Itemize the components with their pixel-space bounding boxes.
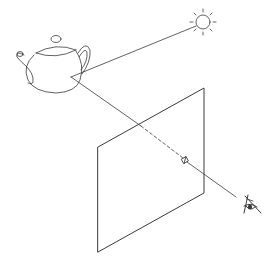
- view-ray-front: [71, 77, 141, 126]
- view-ray-back: [187, 162, 236, 197]
- view-ray-hidden: [141, 126, 183, 158]
- image-plane: [98, 88, 204, 252]
- eye-icon: [244, 195, 261, 213]
- ray-tracing-diagram: [0, 0, 276, 269]
- teapot-icon: [17, 36, 90, 94]
- sun-icon: [190, 9, 216, 35]
